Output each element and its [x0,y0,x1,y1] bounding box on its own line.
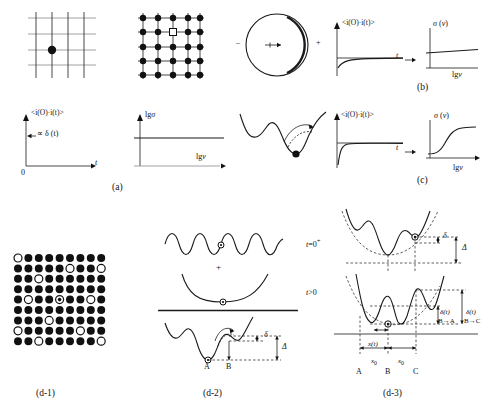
lattice-site-filled [97,296,105,304]
particle-dot [292,150,299,157]
panel-a-sigma-ylabel: lgσ [145,110,155,119]
lattice-site-filled [14,264,22,272]
lattice-site-filled [14,306,22,314]
caption-a: (a) [112,182,123,192]
lattice-site-filled [56,285,64,293]
panel-b-correlation-plot [329,18,414,78]
lattice-site-filled [97,327,105,335]
lattice-site-filled [87,316,95,324]
lattice-site-filled [35,254,43,262]
lattice-site-filled [24,337,32,345]
panel-d3-delta-t-left-label: δ(t) [440,308,450,316]
lattice-site-filled [97,306,105,314]
panel-d3-transition-right-label: B→C [464,317,480,325]
lattice-site-filled [45,337,53,345]
lattice-site-filled [24,264,32,272]
panel-d1-disorder-lattice [13,253,113,343]
lattice-site-filled [56,264,64,272]
lattice-site-filled [87,285,95,293]
lattice-site-filled [76,275,84,283]
lattice-site-filled [14,285,22,293]
lattice-site-filled [24,316,32,324]
panel-d3-site-b-label: B [385,367,390,376]
lattice-site-filled [45,264,53,272]
lattice-site-filled [56,337,64,345]
lattice-site-filled [45,285,53,293]
lattice-site-filled [87,254,95,262]
lattice-site-filled [56,275,64,283]
panel-c-correlation-ylabel: <i(O)·i(t)> [341,110,374,119]
panel-d3-upper-potential [330,205,480,275]
panel-d2-divider [158,309,298,312]
caption-d3: (d-3) [383,388,402,398]
panel-c-correlation-plot [327,110,415,170]
caption-c: (c) [417,175,428,185]
lattice-site-filled [76,296,84,304]
lattice-site-filled [66,285,74,293]
panel-a-delta-annotation: ∝ δ (t) [37,129,58,138]
panel-d2-periodic-potential [163,228,285,260]
lattice-site-filled [97,285,105,293]
panel-d3-time-later-label: t>0 [306,288,317,297]
panel-a-correlation-ylabel: <i(O)·i(t)> [31,108,64,117]
panel-d3-x0-right-label: x0 [398,357,404,366]
panel-d3-delta-t-right-label: δ(t) [466,308,476,316]
caption-b: (b) [417,82,428,92]
lattice-site-open [24,296,32,304]
panel-b-dipole-sphere [243,12,313,78]
lattice-site-open [14,254,22,262]
lattice-site-filled [24,327,32,335]
panel-d3-site-c-label: C [413,367,418,376]
panel-d3-delta-big-label: Δ [462,243,467,252]
lattice-site-open [76,327,84,335]
panel-a-correlation-plot [14,108,104,170]
lattice-site-filled [87,327,95,335]
vacancy-square [170,29,177,36]
caption-d1: (d-1) [36,388,55,398]
lattice-site-filled [45,306,53,314]
panel-b-arrow-right [405,56,417,64]
lattice-site-filled [45,327,53,335]
lattice-site-filled [45,275,53,283]
lattice-site-filled [35,264,43,272]
lattice-site-filled [24,285,32,293]
panel-b-sigma-plot [420,18,482,78]
panel-a-sigma-plot [128,108,233,170]
lattice-site-filled [35,285,43,293]
panel-a-sigma-xlabel: lgν [196,152,206,161]
panel-d3-site-a-label: A [356,367,362,376]
lattice-site-filled [24,254,32,262]
lattice-site-filled [14,337,22,345]
lattice-dot [48,46,56,54]
lattice-site-open [97,337,105,345]
lattice-site-filled [56,316,64,324]
lattice-site-ringed-core [58,298,62,302]
lattice-site-filled [97,254,105,262]
lattice-site-filled [97,275,105,283]
lattice-site-open [35,275,43,283]
panel-c-sigma-xlabel: lgν [453,163,463,172]
dipole-plus-label: + [316,38,321,47]
lattice-site-open [87,296,95,304]
lattice-site-filled [35,296,43,304]
panel-c-correlation-xlabel: t [396,143,398,152]
lattice-site-filled [35,306,43,314]
lattice-site-filled [14,275,22,283]
panel-d2-plus-sign: + [216,262,221,272]
lattice-site-filled [66,337,74,345]
lattice-site-filled [66,254,74,262]
panel-b-simple-lattice [26,10,98,80]
panel-d2-delta-small-label: δ [264,330,268,339]
lattice-site-filled [35,316,43,324]
lattice-site-filled [76,254,84,262]
panel-d3-delta-small-label: δ [443,231,447,240]
panel-c-sigma-plot [420,110,484,170]
panel-d3-x-of-t-label: x(t) [368,340,378,348]
panel-b-dot-lattice [134,10,208,80]
lattice-site-filled [56,327,64,335]
lattice-site-filled [35,327,43,335]
lattice-site-filled [76,337,84,345]
lattice-site-open [97,264,105,272]
lattice-site-filled [45,296,53,304]
lattice-site-filled [97,316,105,324]
